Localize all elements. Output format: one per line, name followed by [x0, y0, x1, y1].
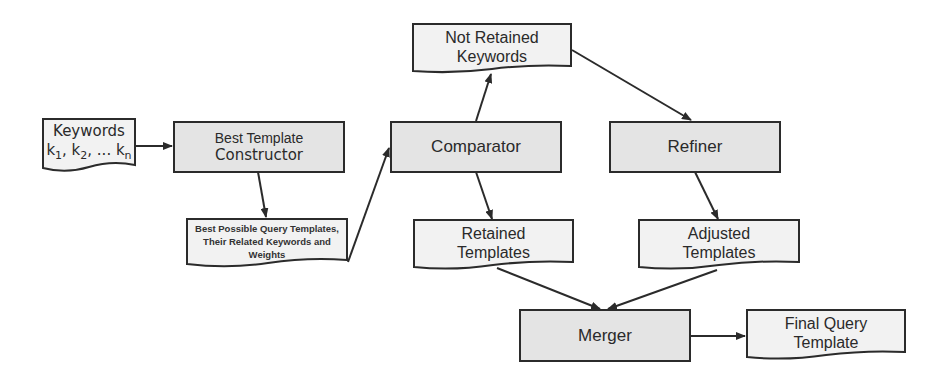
edge-comparator-to-retained: [476, 172, 492, 219]
constructor-label-line1: Best Template: [215, 130, 303, 147]
best-possible-line1: Best Possible Query Templates,: [195, 222, 339, 235]
best-possible-line2: Their Related Keywords and: [195, 235, 339, 248]
edge-not-retained-to-refiner: [572, 50, 691, 120]
best-template-constructor-box: Best Template Constructor: [173, 121, 345, 173]
edge-best-possible-to-comparator: [348, 148, 389, 262]
best-possible-line3: Weights: [195, 248, 339, 261]
not-retained-keywords-document: Not Retained Keywords: [412, 23, 572, 76]
edge-refiner-to-adjusted: [695, 172, 718, 219]
comparator-label: Comparator: [431, 137, 521, 157]
keywords-list: k1, k2, ... kn: [46, 141, 131, 165]
constructor-label-line2: Constructor: [215, 147, 303, 164]
adjusted-line1: Adjusted: [683, 224, 756, 243]
keywords-title: Keywords: [46, 122, 131, 141]
refiner-box: Refiner: [609, 121, 781, 173]
edge-comparator-to-not-retained: [476, 74, 491, 121]
final-line2: Template: [785, 333, 868, 352]
final-line1: Final Query: [785, 314, 868, 333]
retained-templates-document: Retained Templates: [413, 219, 574, 272]
refiner-label: Refiner: [668, 137, 723, 157]
edge-retained-to-merger: [497, 268, 600, 309]
keywords-document: Keywords k1, k2, ... kn: [42, 118, 136, 174]
merger-label: Merger: [578, 326, 632, 346]
adjusted-line2: Templates: [683, 243, 756, 262]
retained-line1: Retained: [457, 224, 530, 243]
not-retained-line1: Not Retained: [445, 28, 538, 47]
retained-line2: Templates: [457, 243, 530, 262]
adjusted-templates-document: Adjusted Templates: [638, 219, 800, 272]
merger-box: Merger: [519, 309, 691, 362]
best-possible-templates-document: Best Possible Query Templates, Their Rel…: [186, 218, 348, 270]
edge-constructor-to-best-possible: [258, 172, 266, 217]
edge-adjusted-to-merger: [608, 270, 717, 309]
final-query-template-document: Final Query Template: [746, 309, 906, 362]
comparator-box: Comparator: [390, 121, 562, 173]
not-retained-line2: Keywords: [445, 47, 538, 66]
